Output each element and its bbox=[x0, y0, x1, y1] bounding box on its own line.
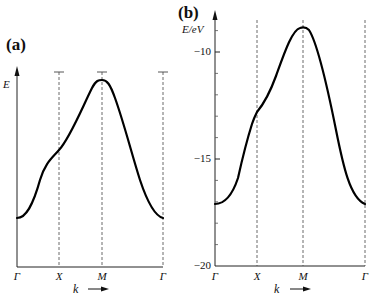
panel-b-y-axis-arrow-icon bbox=[213, 10, 218, 20]
panel-b-x-tick-m: M bbox=[293, 270, 313, 282]
panel-b-y-tick-minus15: −15 bbox=[189, 152, 211, 164]
panel-a-x-axis-title: k bbox=[73, 282, 78, 297]
panel-b-x-axis-title: k bbox=[274, 282, 279, 297]
panel-a-x-tick-x: X bbox=[49, 270, 69, 282]
panel-b-band-curve bbox=[215, 27, 365, 204]
panel-b-label: (b) bbox=[178, 3, 199, 23]
panel-b-x-tick-gamma-start: Γ bbox=[205, 270, 225, 282]
panel-a-y-axis-arrow-icon bbox=[15, 66, 20, 76]
panel-a-x-tick-gamma-end: Γ bbox=[153, 270, 173, 282]
chart-panel-a bbox=[0, 0, 376, 297]
panel-b-x-tick-x: X bbox=[247, 270, 267, 282]
panel-a-band-curve bbox=[17, 80, 163, 218]
panel-a-x-tick-gamma-start: Γ bbox=[7, 270, 27, 282]
panel-a-x-tick-m: M bbox=[92, 270, 112, 282]
panel-b-y-axis-title: E/eV bbox=[182, 23, 203, 35]
panel-b-x-tick-gamma-end: Γ bbox=[355, 270, 375, 282]
panel-b-y-tick-minus10: −10 bbox=[189, 45, 211, 57]
